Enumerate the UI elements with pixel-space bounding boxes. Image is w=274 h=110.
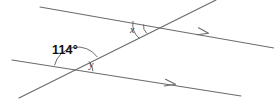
upper-parallel-line: [40, 7, 274, 48]
upper-line-arrow-icon: [197, 28, 208, 35]
lower-parallel-line: [12, 60, 241, 96]
lower-line-arrow-icon: [164, 79, 175, 86]
angle-label-x: x: [130, 25, 134, 35]
geometry-diagram: x y 114°: [0, 0, 274, 110]
angle-label-114: 114°: [52, 44, 78, 57]
angle-label-y: y: [89, 60, 93, 70]
diagram-canvas: [0, 0, 274, 110]
transversal-line: [19, 0, 216, 98]
